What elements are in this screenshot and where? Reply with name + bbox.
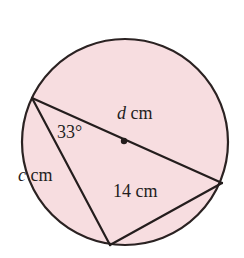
circle-diagram-svg (0, 0, 244, 258)
chord-c-variable: c (18, 165, 26, 185)
center-point-dot (121, 138, 127, 144)
diameter-unit-text: cm (131, 103, 153, 123)
diameter-variable: d (117, 103, 126, 123)
chord-c-unit-text: cm (31, 165, 53, 185)
chord-14-unit-text: cm (136, 181, 158, 201)
chord-c-label: c cm (18, 166, 53, 184)
geometry-figure-page: d cm 33° c cm 14 cm (0, 0, 244, 258)
diameter-label: d cm (117, 104, 153, 122)
chord-14-label: 14 cm (113, 182, 158, 200)
chord-14-value: 14 (113, 181, 131, 201)
angle-label: 33° (57, 123, 82, 141)
